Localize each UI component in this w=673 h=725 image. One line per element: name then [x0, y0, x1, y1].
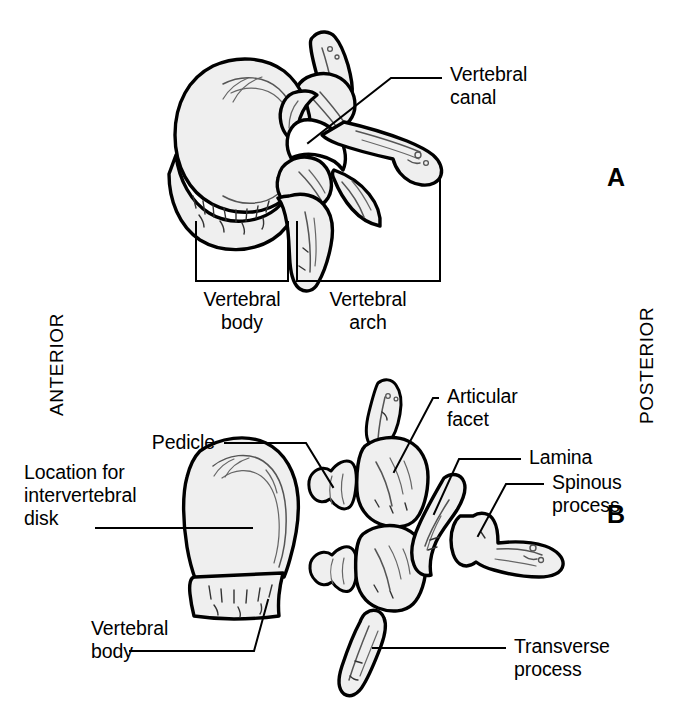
label-vertebral-arch-a: Vertebral arch [308, 288, 428, 334]
label-spinous-process: Spinous process [552, 471, 622, 517]
label-vertebral-body-b: Vertebral body [91, 617, 168, 663]
label-pedicle: Pedicle [85, 431, 215, 454]
panel-mark-a: A [607, 163, 625, 192]
orientation-posterior-label: POSTERIOR [636, 307, 658, 424]
pedicle-lower-b [310, 547, 357, 592]
label-vertebral-canal: Vertebral canal [450, 63, 527, 109]
label-lamina: Lamina [529, 446, 592, 469]
orientation-anterior-label: ANTERIOR [46, 313, 68, 416]
panel-a-vertebra-superior-view [169, 32, 442, 291]
label-articular-facet: Articular facet [447, 385, 518, 431]
vertebra-figure: .o { fill:#efefef; stroke:#000; stroke-w… [0, 0, 673, 725]
lamina-a [333, 170, 381, 226]
transverse-process-b [339, 610, 385, 695]
articular-facet-b [357, 438, 428, 527]
label-vertebral-body-a: Vertebral body [186, 288, 298, 334]
spinous-process-b [451, 513, 563, 577]
spinous-process-a [278, 194, 332, 291]
label-transverse-process: Transverse process [514, 635, 610, 681]
label-location-for-intervertebral-disk: Location for intervertebral disk [24, 461, 136, 530]
